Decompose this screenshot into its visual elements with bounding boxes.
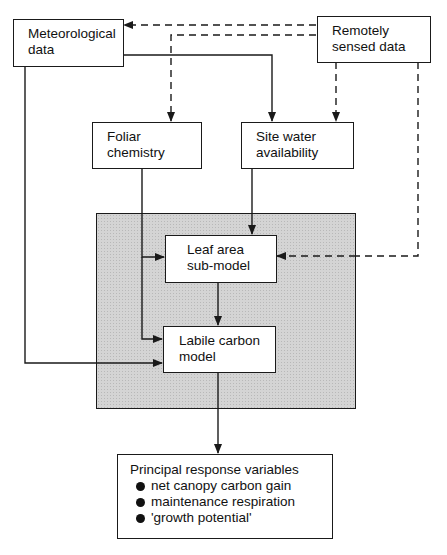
node-label: Meteorological [28,26,123,42]
node-label: Leaf area [187,242,276,258]
node-labile-carbon-model: Labile carbon model [163,326,276,373]
response-variable-item: maintenance respiration [136,494,332,510]
node-site-water-availability: Site water availability [241,122,354,169]
node-principal-response-variables: Principal response variables net canopy … [117,454,333,539]
remote-to-foliar-arrow [171,35,316,121]
node-meteorological-data: Meteorological data [13,19,124,67]
node-label: availability [256,145,353,161]
node-label: sub-model [187,258,276,274]
met-to-water-arrow [123,55,272,121]
node-label: data [28,42,123,58]
item-label: net canopy carbon gain [151,478,291,494]
node-label: Remotely [332,23,430,39]
response-variable-list: net canopy carbon gain maintenance respi… [130,478,332,526]
node-label: Site water [256,129,353,145]
response-variable-item: net canopy carbon gain [136,478,332,494]
response-variable-item: 'growth potential' [136,510,332,526]
bullet-icon [136,482,145,491]
bullet-icon [136,498,145,507]
node-label: sensed data [332,39,430,55]
principal-title: Principal response variables [130,462,332,478]
item-label: maintenance respiration [151,494,295,510]
node-remotely-sensed-data: Remotely sensed data [317,16,431,63]
node-label: Labile carbon [179,333,275,349]
node-label: Foliar [107,129,201,145]
node-label: chemistry [107,145,201,161]
node-label: model [179,349,275,365]
node-leaf-area-sub-model: Leaf area sub-model [165,235,277,283]
node-foliar-chemistry: Foliar chemistry [92,122,202,169]
item-label: 'growth potential' [151,510,251,526]
bullet-icon [136,514,145,523]
